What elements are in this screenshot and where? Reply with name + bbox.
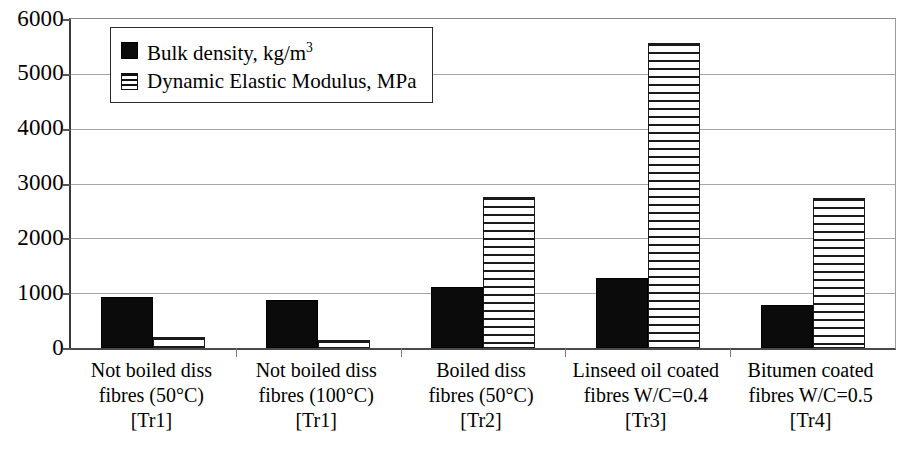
x-category-label-3-line3: [Tr2] <box>401 408 562 433</box>
bar-dynamic-modulus-1 <box>153 337 205 348</box>
legend-label-bulk-density: Bulk density, kg/m3 <box>147 34 313 67</box>
legend-label-bulk-density-sup: 3 <box>306 40 313 55</box>
bar-bulk-density-5 <box>761 305 813 348</box>
x-category-label-2-line3: [Tr1] <box>236 408 397 433</box>
legend-swatch-striped-icon <box>121 73 138 90</box>
x-tick-mark-2 <box>236 348 237 357</box>
y-tick-mark-2000 <box>63 238 71 240</box>
x-category-label-5-line1: Bitumen coated <box>730 358 891 383</box>
x-category-label-2-line1: Not boiled diss <box>236 358 397 383</box>
x-tick-mark-5 <box>730 348 731 357</box>
bar-dynamic-modulus-3 <box>483 197 535 348</box>
bar-chart: 6000 5000 4000 3000 2000 1000 0 <box>0 0 898 472</box>
x-tick-mark-3 <box>401 348 402 357</box>
x-category-label-2-line2: fibres (100°C) <box>236 383 397 408</box>
x-category-label-4-line3: [Tr3] <box>565 408 726 433</box>
y-tick-mark-0 <box>63 348 71 350</box>
x-category-label-5-line3: [Tr4] <box>730 408 891 433</box>
x-category-label-4: Linseed oil coated fibres W/C=0.4 [Tr3] <box>563 358 728 433</box>
bar-bulk-density-3 <box>431 287 483 348</box>
legend-entry-bulk-density: Bulk density, kg/m3 <box>121 34 416 67</box>
x-category-label-5-line2: fibres W/C=0.5 <box>730 383 891 408</box>
x-category-label-3-line1: Boiled diss <box>401 358 562 383</box>
x-category-label-5: Bitumen coated fibres W/C=0.5 [Tr4] <box>728 358 893 433</box>
bar-bulk-density-1 <box>101 297 153 348</box>
bar-bulk-density-2 <box>266 300 318 348</box>
legend-label-bulk-density-text: Bulk density, kg/m <box>147 41 306 65</box>
y-axis: 6000 5000 4000 3000 2000 1000 0 <box>0 0 64 472</box>
y-tick-mark-3000 <box>63 184 71 186</box>
x-category-label-1-line2: fibres (50°C) <box>71 383 232 408</box>
x-category-label-1-line1: Not boiled diss <box>71 358 232 383</box>
y-tick-mark-5000 <box>63 74 71 76</box>
y-tick-mark-6000 <box>63 19 71 21</box>
x-category-label-2: Not boiled diss fibres (100°C) [Tr1] <box>234 358 399 433</box>
bar-dynamic-modulus-5 <box>813 198 865 348</box>
x-axis: Not boiled diss fibres (50°C) [Tr1] Not … <box>69 358 893 433</box>
y-tick-label-3000: 3000 <box>2 171 64 194</box>
legend-entry-dynamic-modulus: Dynamic Elastic Modulus, MPa <box>121 67 416 95</box>
y-tick-label-2000: 2000 <box>2 226 64 249</box>
bar-dynamic-modulus-2 <box>318 340 370 348</box>
y-tick-label-6000: 6000 <box>2 7 64 30</box>
legend-label-dynamic-modulus: Dynamic Elastic Modulus, MPa <box>147 67 416 95</box>
x-category-label-3: Boiled diss fibres (50°C) [Tr2] <box>399 358 564 433</box>
x-category-label-4-line2: fibres W/C=0.4 <box>565 383 726 408</box>
bar-group-5 <box>730 19 895 348</box>
x-category-label-4-line1: Linseed oil coated <box>565 358 726 383</box>
y-tick-mark-4000 <box>63 129 71 131</box>
x-tick-mark-4 <box>565 348 566 357</box>
x-category-label-1: Not boiled diss fibres (50°C) [Tr1] <box>69 358 234 433</box>
bar-dynamic-modulus-4 <box>648 43 700 348</box>
x-category-label-3-line2: fibres (50°C) <box>401 383 562 408</box>
x-category-label-1-line3: [Tr1] <box>71 408 232 433</box>
bar-bulk-density-4 <box>596 278 648 348</box>
y-tick-label-0: 0 <box>2 336 64 359</box>
y-tick-mark-1000 <box>63 293 71 295</box>
bar-group-4 <box>565 19 730 348</box>
y-tick-label-5000: 5000 <box>2 61 64 84</box>
legend-swatch-solid-icon <box>121 42 138 59</box>
y-tick-label-1000: 1000 <box>2 281 64 304</box>
legend: Bulk density, kg/m3 Dynamic Elastic Modu… <box>110 27 433 103</box>
y-tick-label-4000: 4000 <box>2 116 64 139</box>
